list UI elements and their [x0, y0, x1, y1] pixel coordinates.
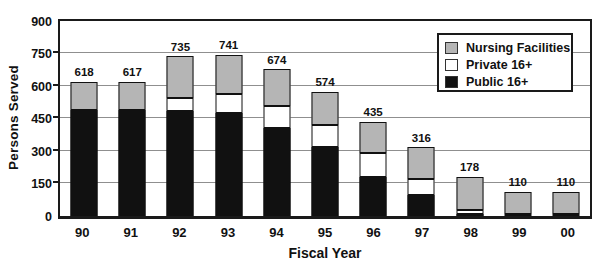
bar-stack [552, 192, 579, 216]
bar-segment [552, 214, 579, 216]
y-tick-label: 300 [31, 145, 52, 159]
bar-segment [552, 192, 579, 214]
bar-total-label: 735 [171, 41, 190, 53]
y-tick-label: 450 [31, 112, 52, 126]
y-axis-tick [53, 116, 59, 118]
bar-stack [504, 192, 531, 216]
bar-segment [167, 56, 194, 98]
y-axis-tick [53, 84, 59, 86]
bar-segment [71, 110, 98, 216]
y-axis-tick-labels: 0150300450600750900 [0, 19, 52, 219]
bar-column: 674 [253, 21, 301, 216]
bar-column: 617 [108, 21, 156, 216]
bar-segment [360, 122, 387, 153]
legend-swatch-nursing-icon [445, 42, 458, 54]
bar-segment [311, 125, 338, 147]
x-tick-label: 93 [204, 225, 253, 241]
bar-segment [119, 110, 146, 216]
y-tick-label: 150 [31, 177, 52, 191]
bar-segment [311, 92, 338, 125]
bar-column: 574 [301, 21, 349, 216]
y-tick-label: 900 [31, 15, 52, 29]
bar-segment [311, 147, 338, 216]
legend: Nursing Facilities Private 16+ Public 16… [437, 33, 573, 92]
bar-segment [504, 214, 531, 216]
bar-total-label: 110 [508, 176, 527, 188]
bar-stack [71, 82, 98, 216]
legend-row: Nursing Facilities [445, 40, 571, 56]
y-tick-label: 600 [31, 80, 52, 94]
bar-stack [167, 56, 194, 216]
bar-stack [456, 177, 483, 216]
x-tick-label: 98 [446, 225, 495, 241]
legend-label-nursing: Nursing Facilities [466, 41, 570, 55]
bar-segment [360, 153, 387, 177]
bar-segment [360, 177, 387, 216]
x-tick-label: 94 [252, 225, 301, 241]
bar-total-label: 435 [364, 106, 383, 118]
bar-column: 741 [205, 21, 253, 216]
bar-stack [215, 55, 242, 216]
bar-segment [408, 147, 435, 179]
x-tick-label: 90 [58, 225, 107, 241]
bar-column: 618 [60, 21, 108, 216]
y-axis-tick [53, 181, 59, 183]
bar-total-label: 178 [460, 161, 479, 173]
bar-segment [167, 111, 194, 216]
bar-stack [119, 82, 146, 216]
bar-segment [215, 113, 242, 216]
x-tick-label: 97 [398, 225, 447, 241]
bar-total-label: 741 [219, 39, 238, 51]
x-tick-label: 00 [543, 225, 592, 241]
legend-row: Public 16+ [445, 74, 571, 90]
bar-segment [119, 82, 146, 110]
legend-row: Private 16+ [445, 57, 571, 73]
bar-segment [263, 128, 290, 216]
bar-segment [71, 82, 98, 110]
bar-segment [408, 179, 435, 195]
bar-segment [263, 69, 290, 106]
x-tick-label: 95 [301, 225, 350, 241]
bar-segment [456, 214, 483, 216]
bar-segment [215, 55, 242, 94]
bar-total-label: 674 [267, 54, 286, 66]
bar-column: 435 [349, 21, 397, 216]
y-tick-label: 0 [45, 210, 52, 224]
bar-segment [504, 192, 531, 214]
bar-segment [215, 94, 242, 113]
legend-swatch-public-icon [445, 76, 458, 88]
x-tick-label: 96 [349, 225, 398, 241]
stacked-bar-chart: Persons Served 0150300450600750900 61861… [0, 0, 598, 265]
bar-total-label: 316 [412, 132, 431, 144]
bar-total-label: 618 [74, 66, 93, 78]
legend-label-private: Private 16+ [466, 58, 532, 72]
bar-stack [408, 147, 435, 216]
bar-total-label: 617 [123, 66, 142, 78]
bar-stack [360, 122, 387, 216]
bar-segment [167, 98, 194, 111]
x-tick-label: 91 [107, 225, 156, 241]
bar-total-label: 110 [557, 176, 576, 188]
bar-total-label: 574 [315, 76, 334, 88]
x-tick-label: 99 [495, 225, 544, 241]
x-axis-title: Fiscal Year [58, 245, 592, 261]
x-axis-tick-labels: 9091929394959697989900 [58, 225, 592, 241]
bar-stack [311, 92, 338, 216]
bar-stack [263, 69, 290, 216]
y-axis-tick [53, 51, 59, 53]
bar-segment [456, 177, 483, 210]
bar-column: 735 [156, 21, 204, 216]
legend-swatch-private-icon [445, 59, 458, 71]
bar-segment [408, 195, 435, 216]
bar-segment [263, 106, 290, 128]
legend-label-public: Public 16+ [466, 75, 528, 89]
y-axis-tick [53, 149, 59, 151]
y-tick-label: 750 [31, 47, 52, 61]
x-tick-label: 92 [155, 225, 204, 241]
